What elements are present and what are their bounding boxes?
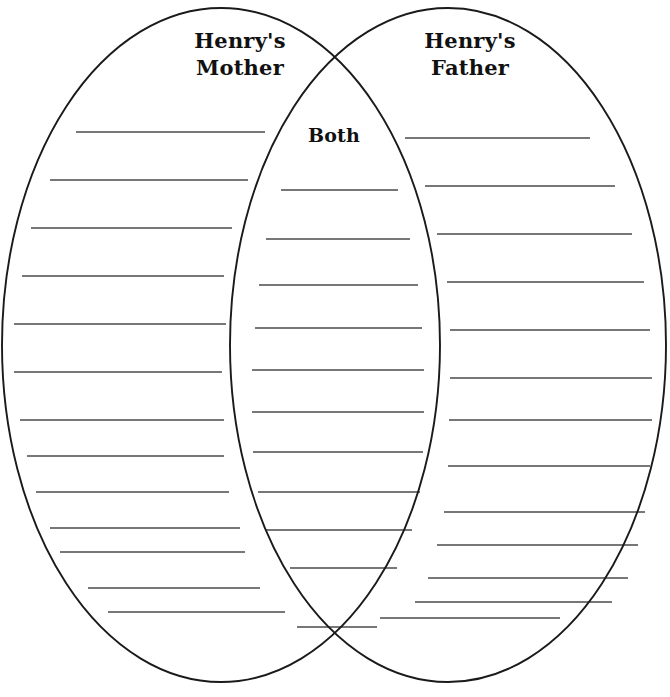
left-set-label: Henry's Mother: [140, 28, 340, 82]
venn-ellipse-outlines: [2, 8, 666, 682]
center-region-writing-lines[interactable]: [252, 190, 424, 627]
venn-diagram-canvas: [0, 0, 670, 697]
intersection-label: Both: [288, 123, 380, 147]
right-ellipse: [230, 8, 666, 682]
left-region-writing-lines[interactable]: [14, 132, 285, 612]
left-ellipse: [2, 8, 440, 682]
venn-diagram-worksheet: Henry's Mother Henry's Father Both: [0, 0, 670, 697]
right-set-label: Henry's Father: [372, 28, 568, 82]
